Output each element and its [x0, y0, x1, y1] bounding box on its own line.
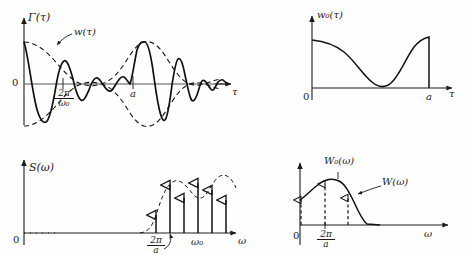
panel4-tick-label-2pi-over-a: 2π a	[316, 230, 336, 249]
s-omega-envelope	[24, 175, 236, 233]
s-omega-spectral-lines	[156, 183, 226, 233]
tick-label-2pi-over-omega0: 2π ω₀	[53, 89, 75, 108]
panel2-tick-label-a: a	[426, 91, 432, 102]
panel3-origin-label: 0	[13, 234, 19, 245]
w-omega-spectral-lines	[301, 184, 348, 225]
frac-numerator: 2π	[53, 89, 75, 98]
w-omega-leader-line	[358, 186, 381, 194]
panel3-xaxis-label: ω	[238, 235, 246, 246]
frac-denominator: a	[316, 240, 336, 249]
w-tau-leader-line	[57, 34, 72, 45]
panel2-origin-label: 0	[303, 91, 309, 102]
panel2-yaxis-label: w₀(τ)	[317, 9, 343, 20]
panel-w0-tau-axes	[312, 16, 452, 100]
tick-label-a: a	[130, 88, 136, 99]
gamma-tau-curve	[24, 42, 228, 123]
panel4-yaxis-label: W₀(ω)	[324, 155, 354, 166]
panel4-origin-label: 0	[293, 230, 299, 241]
panel2-xaxis-label: τ	[449, 88, 455, 99]
tick-label-omega0: ω₀	[191, 236, 203, 247]
panel3-yaxis-label: S(ω)	[29, 161, 54, 174]
panel-s-omega-axes	[24, 160, 236, 245]
w-omega-curve-label: W(ω)	[382, 176, 408, 187]
w0-omega-curve	[300, 179, 380, 225]
panel1-yaxis-label: Γ(τ)	[28, 11, 50, 24]
tick-label-2pi-over-a: 2π a	[146, 236, 166, 255]
w-tau-curve-label: w(τ)	[74, 26, 96, 37]
panel4-xaxis-label: ω	[424, 228, 432, 239]
frac-numerator: 2π	[316, 230, 336, 239]
panel1-xaxis-label: τ	[232, 86, 238, 97]
panel1-origin-label: 0	[12, 77, 18, 88]
frac-denominator: a	[146, 246, 166, 255]
w0-tau-curve	[312, 37, 429, 88]
frac-numerator: 2π	[146, 236, 166, 245]
frac-denominator: ω₀	[53, 99, 75, 108]
